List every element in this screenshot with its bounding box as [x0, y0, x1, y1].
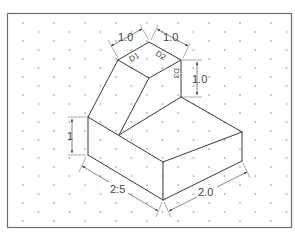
- face-label-d1: D1: [128, 51, 142, 64]
- dim-top-left-label: 1.0: [118, 31, 133, 43]
- dim-top-right-label: 1.0: [163, 31, 178, 43]
- isometric-drawing: 1.0 1.0 1.0 1 2:5 2.0 D1 D2 D3: [0, 0, 295, 240]
- dimension-step-height: 1.0: [182, 60, 207, 97]
- dim-left-height-label: 1: [67, 130, 73, 142]
- dimension-base-depth: 2.0: [164, 163, 250, 217]
- face-label-d3: D3: [172, 68, 181, 79]
- drawing-frame: [8, 14, 292, 228]
- part-outline: [88, 42, 242, 200]
- dimension-top-left: 1.0: [108, 25, 149, 58]
- dim-base-depth-label: 2.0: [198, 186, 213, 198]
- isometric-dot-grid: [22, 22, 287, 222]
- dim-step-height-label: 1.0: [192, 73, 207, 85]
- dimension-base-length: 2:5: [79, 157, 162, 217]
- dim-base-length-label: 2:5: [110, 183, 125, 195]
